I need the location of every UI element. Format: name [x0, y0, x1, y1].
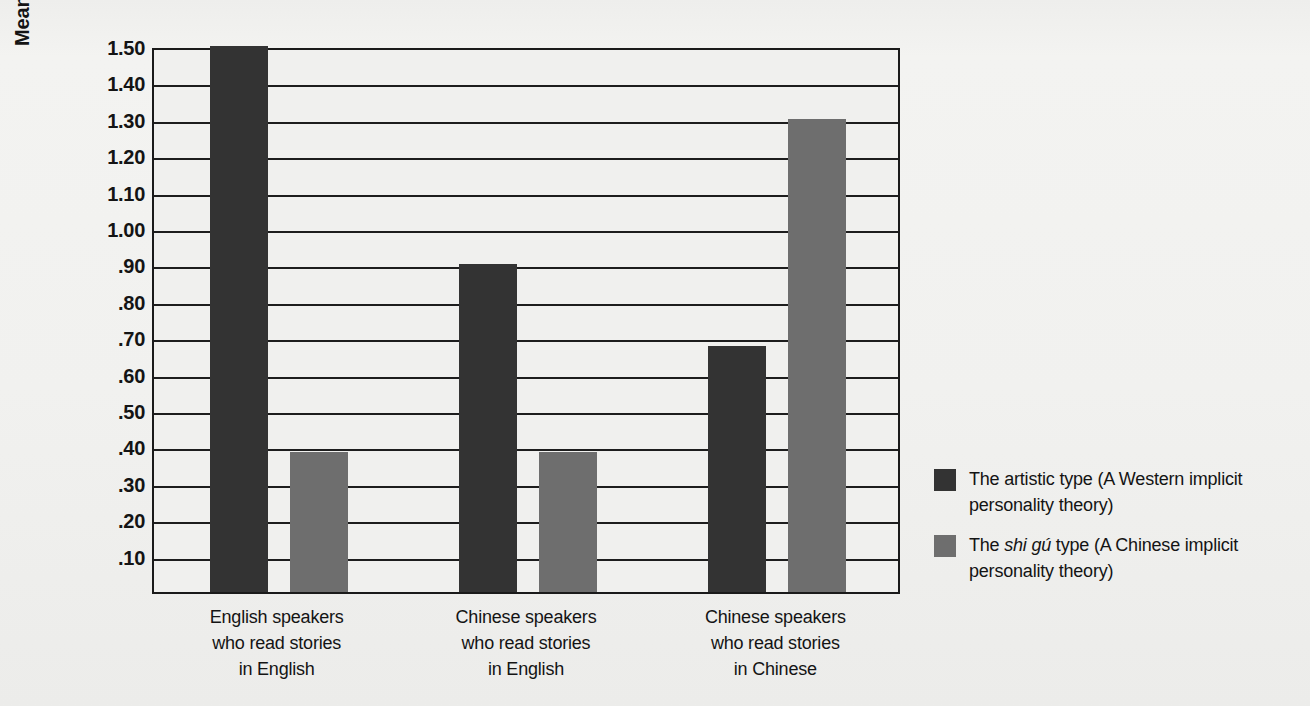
x-axis-category-label: Chinese speakerswho read storiesin Engli…	[401, 604, 650, 694]
legend: The artistic type (A Western implicitper…	[934, 466, 1304, 598]
y-axis-tick-label: 1.50	[83, 37, 145, 60]
y-axis-tick-label: .60	[83, 364, 145, 387]
x-axis-category-line: Chinese speakers	[401, 604, 650, 630]
y-axis-tick-label: 1.20	[83, 146, 145, 169]
x-axis-category-line: in English	[152, 656, 401, 682]
y-axis-tick-label: 1.10	[83, 182, 145, 205]
x-axis-category-label: English speakerswho read storiesin Engli…	[152, 604, 401, 694]
bars-layer	[154, 50, 898, 592]
legend-item-label: The artistic type (A Western implicitper…	[969, 466, 1242, 518]
y-axis-tick-label: 1.00	[83, 219, 145, 242]
x-axis-category-label: Chinese speakerswho read storiesin Chine…	[651, 604, 900, 694]
legend-item: The artistic type (A Western implicitper…	[934, 466, 1304, 518]
y-axis-tick-label: 1.40	[83, 73, 145, 96]
legend-swatch-icon	[934, 535, 956, 557]
bar	[708, 346, 766, 592]
bar	[290, 452, 348, 592]
legend-item: The shi gú type (A Chinese implicitperso…	[934, 532, 1304, 584]
y-axis-tick-label: 1.30	[83, 109, 145, 132]
y-axis-title: Mean number of new schematic traits	[0, 0, 44, 144]
bar	[788, 119, 846, 592]
y-axis-tick-label: .70	[83, 328, 145, 351]
legend-item-label: The shi gú type (A Chinese implicitperso…	[969, 532, 1238, 584]
y-axis-tick-label: .40	[83, 437, 145, 460]
x-axis-category-line: Chinese speakers	[651, 604, 900, 630]
x-axis-category-line: who read stories	[401, 630, 650, 656]
y-axis-tick-label: .50	[83, 401, 145, 424]
bar	[539, 452, 597, 592]
y-axis-tick-labels: 1.501.401.301.201.101.00.90.80.70.60.50.…	[95, 48, 157, 594]
plot-area	[152, 48, 900, 594]
x-axis-category-line: in Chinese	[651, 656, 900, 682]
figure-page: Mean number of new schematic traits 1.50…	[0, 0, 1310, 706]
legend-italic-term: shi gú	[1004, 535, 1051, 555]
y-axis-tick-label: .20	[83, 510, 145, 533]
y-axis-tick-label: .30	[83, 473, 145, 496]
bar	[210, 46, 268, 592]
x-axis-category-line: in English	[401, 656, 650, 682]
bar	[459, 264, 517, 592]
x-axis-category-line: who read stories	[152, 630, 401, 656]
x-axis-category-line: who read stories	[651, 630, 900, 656]
legend-swatch-icon	[934, 469, 956, 491]
x-axis-category-labels: English speakerswho read storiesin Engli…	[152, 604, 900, 694]
y-axis-tick-label: .80	[83, 291, 145, 314]
y-axis-tick-label: .90	[83, 255, 145, 278]
x-axis-category-line: English speakers	[152, 604, 401, 630]
y-axis-tick-label: .10	[83, 546, 145, 569]
